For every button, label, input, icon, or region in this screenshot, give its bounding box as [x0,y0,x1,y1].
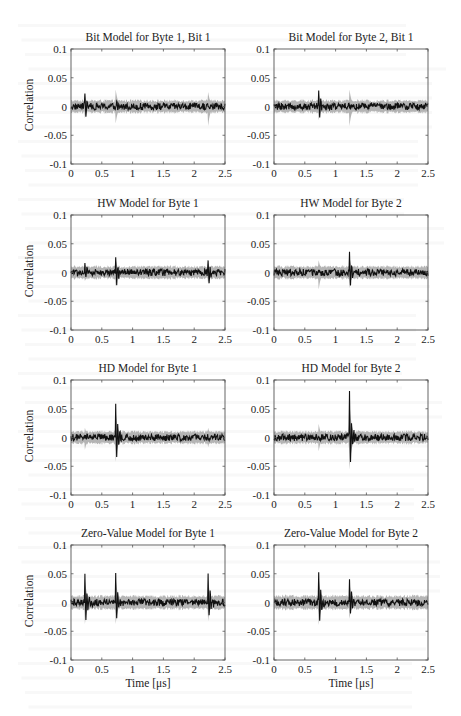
x-tick-label: 1 [130,663,136,675]
x-tick-label: 2 [191,333,197,345]
correlation-plot: 00.511.522.50.10.050-0.05-0.1 [71,380,225,495]
correlation-plot: 00.511.522.50.10.050-0.05-0.1 [274,49,428,164]
correlation-plot: 00.511.522.50.10.050-0.05-0.1 [274,380,428,495]
x-tick-label: 1 [333,663,339,675]
x-tick-label: 0 [271,333,277,345]
x-tick-label: 0 [271,167,277,179]
y-tick-label: 0.05 [48,403,68,415]
panel-title: HW Model for Byte 2 [274,197,428,209]
x-tick-label: 2 [191,663,197,675]
x-tick-label: 1 [130,333,136,345]
y-tick-label: 0.1 [256,43,270,55]
correlation-plot: 00.511.522.50.10.050-0.05-0.1 [71,49,225,164]
x-tick-label: 2.5 [218,333,232,345]
x-tick-label: 1.5 [360,333,374,345]
y-axis-label: Correlation [23,65,35,145]
y-tick-label: -0.05 [247,295,270,307]
x-tick-label: 1 [333,333,339,345]
y-tick-label: 0.05 [48,238,68,250]
x-tick-label: 0 [271,663,277,675]
y-tick-label: -0.05 [44,129,67,141]
x-tick-label: 0.5 [95,663,109,675]
x-tick-label: 1 [333,498,339,510]
y-tick-label: -0.05 [247,129,270,141]
y-tick-label: -0.1 [50,489,67,501]
y-tick-label: -0.1 [50,324,67,336]
y-tick-label: -0.05 [247,460,270,472]
y-axis-label: Correlation [23,231,35,311]
y-tick-label: 0.05 [251,238,271,250]
y-tick-label: 0 [62,432,68,444]
x-tick-label: 1.5 [157,498,171,510]
y-tick-label: 0 [265,432,271,444]
x-axis-label: Time [μs] [274,677,428,689]
x-tick-label: 1.5 [157,167,171,179]
correlation-plot: 00.511.522.50.10.050-0.05-0.1 [274,545,428,660]
y-tick-label: 0.1 [256,374,270,386]
y-axis-label: Correlation [23,561,35,641]
panel-title: HD Model for Byte 1 [71,362,225,374]
x-tick-label: 1 [130,498,136,510]
x-tick-label: 2 [394,167,400,179]
y-tick-label: 0.1 [256,209,270,221]
y-tick-label: 0.1 [256,539,270,551]
x-tick-label: 2.5 [218,663,232,675]
x-tick-label: 2.5 [421,498,435,510]
x-tick-label: 2 [394,498,400,510]
correct-key-trace [274,391,428,462]
x-tick-label: 0 [68,167,74,179]
x-tick-label: 0.5 [298,333,312,345]
x-tick-label: 0 [68,333,74,345]
y-tick-label: 0 [62,267,68,279]
x-tick-label: 2 [394,663,400,675]
y-tick-label: -0.1 [253,158,270,170]
y-tick-label: -0.1 [50,158,67,170]
x-tick-label: 0.5 [298,663,312,675]
correlation-plot: 00.511.522.50.10.050-0.05-0.1 [71,545,225,660]
x-tick-label: 2.5 [421,333,435,345]
x-tick-label: 2 [191,167,197,179]
correlation-plot: 00.511.522.50.10.050-0.05-0.1 [71,215,225,330]
y-tick-label: 0 [62,597,68,609]
x-tick-label: 1.5 [157,663,171,675]
panel-title: HD Model for Byte 2 [274,362,428,374]
x-tick-label: 0 [68,498,74,510]
y-tick-label: -0.1 [253,324,270,336]
x-tick-label: 0 [68,663,74,675]
y-tick-label: -0.05 [44,460,67,472]
y-tick-label: -0.1 [253,489,270,501]
x-tick-label: 2.5 [218,167,232,179]
y-axis-label: Correlation [23,396,35,476]
y-tick-label: 0 [265,597,271,609]
x-tick-label: 0.5 [95,167,109,179]
panel-title: Bit Model for Byte 1, Bit 1 [71,31,225,43]
x-tick-label: 0 [271,498,277,510]
x-tick-label: 2 [394,333,400,345]
correct-key-trace [71,404,225,457]
y-tick-label: 0.05 [251,72,271,84]
y-tick-label: 0 [265,101,271,113]
x-tick-label: 1 [130,167,136,179]
x-tick-label: 1.5 [360,498,374,510]
y-tick-label: 0.1 [53,374,67,386]
x-tick-label: 1.5 [360,167,374,179]
y-tick-label: -0.1 [253,654,270,666]
y-tick-label: 0.1 [53,209,67,221]
y-tick-label: -0.05 [247,625,270,637]
x-tick-label: 2 [191,498,197,510]
x-tick-label: 1 [333,167,339,179]
y-tick-label: -0.05 [44,625,67,637]
panel-title: Zero-Value Model for Byte 1 [71,527,225,539]
x-tick-label: 2.5 [421,663,435,675]
y-tick-label: -0.1 [50,654,67,666]
x-tick-label: 0.5 [298,167,312,179]
y-tick-label: 0 [265,267,271,279]
y-tick-label: 0.05 [251,403,271,415]
y-tick-label: 0.05 [48,72,68,84]
panel-title: HW Model for Byte 1 [71,197,225,209]
x-axis-label: Time [μs] [71,677,225,689]
y-tick-label: 0.05 [48,568,68,580]
x-tick-label: 1.5 [360,663,374,675]
x-tick-label: 2.5 [421,167,435,179]
x-tick-label: 0.5 [95,498,109,510]
